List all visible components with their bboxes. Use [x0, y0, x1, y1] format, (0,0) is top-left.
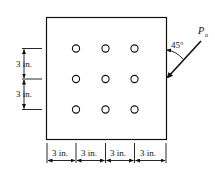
vertical-dimensions: [22, 49, 42, 110]
bolt-hole: [131, 106, 138, 113]
bolt-plate-diagram: 45° P u 3 in. 3 in. 3 in. 3 in. 3 in. 3 …: [0, 0, 215, 172]
horizontal-dimension-label: 3 in.: [110, 148, 126, 158]
load-label: P: [197, 25, 204, 36]
load-subscript: u: [205, 32, 208, 38]
bolt-hole: [72, 106, 79, 113]
bolt-hole: [72, 45, 79, 52]
bolt-holes: [72, 45, 138, 113]
bolt-hole: [131, 75, 138, 82]
bolt-hole: [102, 75, 109, 82]
angle-arc: [167, 50, 184, 59]
angle-label: 45°: [171, 40, 184, 50]
bolt-hole: [102, 45, 109, 52]
horizontal-dimension-label: 3 in.: [140, 148, 156, 158]
horizontal-dimension-label: 3 in.: [52, 148, 68, 158]
vertical-dimension-label: 3 in.: [16, 89, 32, 99]
horizontal-dimension-label: 3 in.: [81, 148, 97, 158]
plate: [47, 18, 167, 140]
vertical-dimension-label: 3 in.: [16, 59, 32, 69]
bolt-hole: [102, 106, 109, 113]
bolt-hole: [131, 45, 138, 52]
bolt-hole: [72, 75, 79, 82]
